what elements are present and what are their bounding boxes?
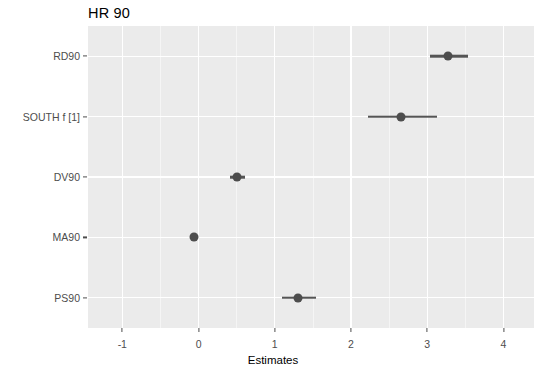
x-tick-mark [503, 328, 504, 332]
y-tick-mark [83, 237, 87, 238]
point-estimate-marker [189, 233, 198, 242]
gridline-horizontal-major [88, 237, 534, 238]
x-tick-label: 4 [501, 338, 507, 350]
x-tick-mark [198, 328, 199, 332]
coefficient-plot: HR 90 PS90MA90DV90SOUTH f [1]RD90 -10123… [0, 0, 546, 385]
x-tick-label: 2 [348, 338, 354, 350]
gridline-horizontal-major [88, 116, 534, 117]
y-tick-label: PS90 [0, 292, 80, 304]
point-estimate-marker [397, 112, 406, 121]
x-tick-label: 1 [272, 338, 278, 350]
x-tick-mark [427, 328, 428, 332]
y-tick-label: DV90 [0, 171, 80, 183]
x-tick-mark [122, 328, 123, 332]
x-tick-label: 0 [196, 338, 202, 350]
point-estimate-marker [443, 52, 452, 61]
page-title: HR 90 [88, 5, 130, 21]
x-axis-title: Estimates [0, 354, 546, 366]
y-tick-mark [83, 56, 87, 57]
y-tick-mark [83, 116, 87, 117]
x-tick-label: -1 [118, 338, 127, 350]
y-tick-mark [83, 176, 87, 177]
y-tick-label: MA90 [0, 231, 80, 243]
gridline-horizontal-major [88, 176, 534, 177]
plot-panel [88, 26, 534, 328]
y-tick-label: SOUTH f [1] [0, 111, 80, 123]
x-tick-mark [274, 328, 275, 332]
point-estimate-marker [233, 173, 242, 182]
y-tick-label: RD90 [0, 50, 80, 62]
point-estimate-marker [293, 293, 302, 302]
x-tick-label: 3 [424, 338, 430, 350]
y-tick-mark [83, 297, 87, 298]
x-tick-mark [350, 328, 351, 332]
